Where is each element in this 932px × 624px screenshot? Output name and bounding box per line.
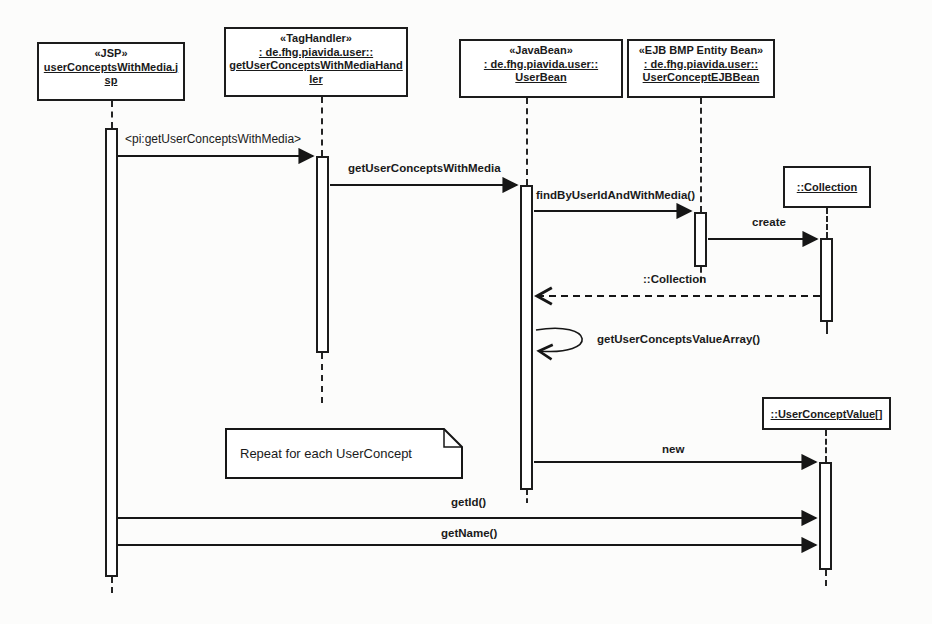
participant-ejbbean: «EJB BMP Entity Bean» : de.fhg.piavida.u…	[627, 39, 775, 98]
message-label-get-user-concepts-value-array: getUserConceptsValueArray()	[597, 333, 760, 345]
participant-taghandler-stereotype: «TagHandler»	[228, 32, 404, 46]
lifeline-jsp-lower	[111, 577, 113, 593]
participant-userbean: «JavaBean» : de.fhg.piavida.user:: UserB…	[459, 39, 623, 98]
message-label-get-user-concepts-with-media: getUserConceptsWithMedia	[348, 162, 501, 174]
message-label-get-id: getId()	[451, 496, 486, 508]
participant-ejbbean-stereotype: «EJB BMP Entity Bean»	[631, 44, 771, 58]
participant-ejbbean-qualifier: : de.fhg.piavida.user::	[631, 58, 771, 72]
sequence-diagram-canvas: «JSP» userConceptsWithMedia.jsp «TagHand…	[0, 0, 932, 624]
participant-taghandler-name: getUserConceptsWithMediaHandler	[228, 59, 404, 86]
arrow-self-get-user-concepts-value-array	[536, 328, 582, 351]
activation-taghandler	[316, 156, 329, 353]
participant-ejbbean-name: UserConceptEJBBean	[631, 71, 771, 85]
participant-userbean-name: UserBean	[463, 71, 619, 85]
lifeline-ejbbean-upper	[700, 98, 702, 212]
lifeline-userconceptvalue-lower	[825, 570, 827, 586]
message-label-create: create	[752, 216, 786, 228]
participant-jsp-name: userConceptsWithMedia.jsp	[41, 61, 181, 88]
object-collection-name: ::Collection	[797, 181, 858, 193]
note-text: Repeat for each UserConcept	[240, 446, 412, 461]
participant-userbean-stereotype: «JavaBean»	[463, 44, 619, 58]
object-userconceptvalue: ::UserConceptValue[]	[762, 397, 891, 430]
message-label-new: new	[662, 443, 684, 455]
lifeline-userbean-upper	[526, 98, 528, 185]
participant-jsp: «JSP» userConceptsWithMedia.jsp	[37, 42, 185, 101]
lifeline-userconceptvalue-upper	[825, 430, 827, 462]
activation-ejbbean	[694, 212, 707, 267]
activation-userconceptvalue	[819, 462, 832, 570]
lifeline-userbean-lower	[526, 490, 528, 503]
activation-jsp	[105, 128, 118, 577]
message-label-pi-get-user-concepts-with-media: <pi:getUserConceptsWithMedia>	[125, 132, 301, 146]
message-label-get-name: getName()	[441, 527, 497, 539]
participant-taghandler: «TagHandler» : de.fhg.piavida.user:: get…	[224, 27, 408, 97]
lifeline-taghandler-lower	[321, 353, 323, 403]
participant-taghandler-qualifier: : de.fhg.piavida.user::	[228, 46, 404, 60]
participant-userbean-qualifier: : de.fhg.piavida.user::	[463, 58, 619, 72]
participant-jsp-stereotype: «JSP»	[41, 47, 181, 61]
activation-collection	[820, 238, 833, 322]
lifeline-taghandler-upper	[321, 97, 323, 156]
message-label-return-collection: ::Collection	[643, 273, 706, 285]
message-label-find-by-user-id-and-with-media: findByUserIdAndWithMedia()	[536, 189, 695, 201]
lifeline-collection-lower	[826, 322, 828, 334]
object-userconceptvalue-name: ::UserConceptValue[]	[771, 408, 883, 420]
lifeline-jsp-upper	[111, 101, 113, 128]
object-collection: ::Collection	[783, 166, 871, 208]
lifeline-collection-upper	[826, 208, 828, 238]
activation-userbean	[520, 185, 533, 490]
